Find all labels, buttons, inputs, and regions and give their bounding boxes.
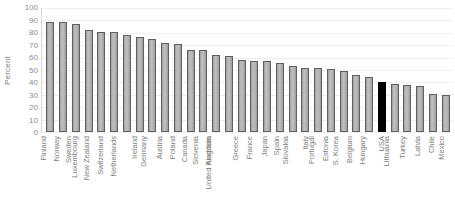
x-axis-label-s-korea: S. Korea: [333, 136, 341, 165]
x-axis-label-luxembourg: Luxembourg: [71, 136, 79, 178]
bar-portugal: [314, 68, 322, 132]
bar-chart: Percent 1009080706050403020100 FinlandNo…: [0, 0, 455, 223]
bar-chile: [429, 94, 437, 132]
x-axis-label-greece: Greece: [233, 136, 241, 161]
bar-slot: [235, 8, 248, 132]
bar-poland: [174, 44, 182, 132]
x-axis-label-mexico: Mexico: [437, 136, 445, 160]
bar-latvia: [416, 86, 424, 132]
x-axis-label-slovenia: Slovenia: [192, 136, 200, 165]
bar-japan: [263, 61, 271, 132]
x-axis-label-netherlands: Netherlands: [110, 136, 118, 176]
bar-lithuania: [391, 84, 399, 132]
bar-new-zealand: [97, 32, 105, 132]
bar-norway: [59, 22, 67, 132]
bar-slovenia: [199, 50, 207, 132]
x-axis-label-portugal: Portugal: [308, 136, 316, 164]
bar-slot: [184, 8, 197, 132]
x-axis-label-switzerland: Switzerland: [98, 136, 106, 175]
x-label-slot: Latvia: [414, 136, 427, 222]
bar-hungary: [365, 77, 373, 132]
bar-slot: [439, 8, 452, 132]
x-axis-label-canada: Canada: [181, 136, 189, 162]
x-axis-category-labels: FinlandNorwaySwedenLuxembourgNew Zealand…: [42, 136, 453, 222]
bar-greece: [238, 60, 246, 132]
bar-slot: [44, 8, 57, 132]
bar-germany: [148, 39, 156, 132]
bar-slot: [414, 8, 427, 132]
bar-slot: [388, 8, 401, 132]
x-axis-label-new-zealand: New Zealand: [82, 136, 90, 180]
bar-slot: [133, 8, 146, 132]
bar-s-korea: [340, 71, 348, 132]
bar-slot: [299, 8, 312, 132]
x-axis-label-hungary: Hungary: [358, 136, 366, 164]
x-axis-label-france: France: [246, 136, 254, 159]
bar-series: [43, 8, 453, 132]
gridline: [42, 132, 453, 133]
bar-slot: [197, 8, 210, 132]
bar-luxembourg: [85, 30, 93, 132]
x-axis-label-japan: Japan: [260, 136, 268, 156]
y-axis-tick-label: 40: [29, 79, 38, 87]
bar-slot: [172, 8, 185, 132]
bar-netherlands: [123, 35, 131, 132]
x-label-slot: Turkey: [401, 136, 414, 222]
bar-slot: [427, 8, 440, 132]
bar-slot: [121, 8, 134, 132]
y-axis-tick-label: 80: [29, 29, 38, 37]
y-axis-title: Percent: [0, 0, 14, 140]
x-axis-label-ireland: Ireland: [131, 136, 139, 159]
y-axis-tick-label: 0: [34, 129, 38, 137]
bar-slot: [350, 8, 363, 132]
bar-slot: [146, 8, 159, 132]
y-axis-title-text: Percent: [3, 56, 12, 85]
x-axis-label-slovakia: Slovakia: [282, 136, 290, 164]
bar-slot: [159, 8, 172, 132]
y-axis-tick-label: 30: [29, 92, 38, 100]
bar-slot: [286, 8, 299, 132]
y-axis-tick-label: 60: [29, 54, 38, 62]
bar-slovakia: [289, 66, 297, 132]
y-axis-tick-label: 90: [29, 17, 38, 25]
bar-sweden: [72, 24, 80, 132]
bar-france: [250, 61, 258, 132]
x-axis-label-latvia: Latvia: [414, 136, 422, 156]
bar-slot: [223, 8, 236, 132]
bar-slot: [312, 8, 325, 132]
bar-belgium: [352, 75, 360, 132]
bar-switzerland: [110, 32, 118, 132]
x-label-slot: Slovakia: [286, 136, 299, 222]
x-axis-label-germany: Germany: [140, 136, 148, 167]
x-axis-label-poland: Poland: [169, 136, 177, 159]
bar-slot: [95, 8, 108, 132]
y-axis-tick-label: 70: [29, 42, 38, 50]
x-axis-label-united-kingdom: United Kingdom: [205, 136, 213, 189]
y-axis-tick-label: 50: [29, 67, 38, 75]
bar-canada: [187, 50, 195, 132]
bar-slot: [210, 8, 223, 132]
x-axis-label-norway: Norway: [53, 136, 61, 161]
bar-finland: [46, 22, 54, 132]
bar-slot: [70, 8, 83, 132]
bar-spain: [276, 63, 284, 132]
bar-australia: [212, 55, 220, 132]
bar-slot: [261, 8, 274, 132]
x-label-slot: France: [248, 136, 261, 222]
bar-slot: [401, 8, 414, 132]
bar-ireland: [136, 37, 144, 132]
bar-mexico: [442, 95, 450, 132]
x-label-slot: Hungary: [363, 136, 376, 222]
x-axis-label-estonia: Estonia: [322, 136, 330, 161]
bar-slot: [108, 8, 121, 132]
y-axis-tick-label: 20: [29, 104, 38, 112]
bar-slot: [82, 8, 95, 132]
plot-area: [41, 8, 453, 133]
x-axis-label-austria: Austria: [157, 136, 165, 159]
bar-slot: [274, 8, 287, 132]
x-axis-label-turkey: Turkey: [400, 136, 408, 159]
x-label-slot: Japan: [260, 136, 273, 222]
bar-slot: [248, 8, 261, 132]
bar-slot: [337, 8, 350, 132]
x-axis-label-lithuania: Lithuania: [383, 136, 391, 166]
